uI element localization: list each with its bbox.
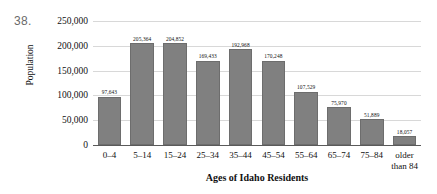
bars-layer: 97,6430–4205,3645–14204,85215–24169,4332…	[93, 21, 421, 145]
bar[interactable]	[393, 136, 417, 145]
bar-value-label: 205,364	[126, 36, 159, 42]
bar-value-label: 75,970	[323, 100, 356, 106]
bar[interactable]	[130, 43, 154, 145]
bar-value-label: 107,529	[290, 84, 323, 90]
y-axis-tick-label: 150,000	[57, 66, 88, 76]
bar[interactable]	[262, 61, 286, 145]
y-axis-tick-label: 50,000	[62, 115, 88, 125]
bar-value-label: 192,968	[224, 42, 257, 48]
y-axis-tick-label: 200,000	[57, 41, 88, 51]
bar-group: 205,3645–14	[126, 21, 159, 145]
y-axis-tick-label: 250,000	[57, 16, 88, 26]
x-axis-baseline: 0	[93, 145, 421, 146]
y-axis-title: Population	[25, 10, 35, 120]
y-axis-tick-label: 0	[83, 140, 88, 150]
bar-group: 75,97065–74	[323, 21, 356, 145]
bar-group: 97,6430–4	[93, 21, 126, 145]
bar-group: 169,43325–34	[191, 21, 224, 145]
bar[interactable]	[294, 92, 318, 145]
x-axis-tick-line: than 84	[382, 161, 427, 172]
bar-chart-figure: 38. Population 050,000100,000150,000200,…	[0, 0, 437, 194]
bar[interactable]	[229, 49, 253, 145]
bar-value-label: 51,889	[355, 112, 388, 118]
bar[interactable]	[360, 119, 384, 145]
bar-group: 192,96835–44	[224, 21, 257, 145]
bar-value-label: 204,852	[159, 36, 192, 42]
bar[interactable]	[98, 97, 122, 145]
y-axis-tick-label: 100,000	[57, 90, 88, 100]
bar-value-label: 169,433	[191, 53, 224, 59]
bar-group: 51,88975–84	[355, 21, 388, 145]
bar-group: 204,85215–24	[159, 21, 192, 145]
plot-area: 050,000100,000150,000200,000250,000 97,6…	[93, 21, 421, 145]
bar-value-label: 97,643	[93, 89, 126, 95]
bar-value-label: 18,057	[388, 129, 421, 135]
bar-group: 170,24845–54	[257, 21, 290, 145]
bar-group: 18,057olderthan 84	[388, 21, 421, 145]
bar-value-label: 170,248	[257, 53, 290, 59]
bar[interactable]	[327, 107, 351, 145]
bar[interactable]	[163, 43, 187, 145]
x-axis-tick-line: older	[382, 150, 427, 161]
bar[interactable]	[196, 61, 220, 145]
x-axis-tick-label: olderthan 84	[382, 150, 427, 171]
x-axis-title: Ages of Idaho Residents	[93, 172, 421, 183]
bar-group: 107,52955–64	[290, 21, 323, 145]
